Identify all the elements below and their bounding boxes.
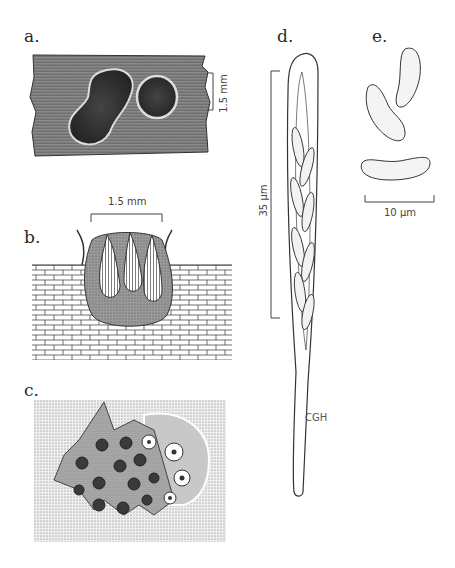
artist-signature: CGH [305,412,327,423]
panel-e-spores-illustration [360,45,440,195]
panel-a-label: a. [24,26,40,46]
panel-a-scale-label: 1.5 mm [218,74,229,114]
panel-b-scale-bar [91,213,163,223]
panel-e-scale-label: 10 µm [384,207,416,218]
panel-d-label: d. [277,26,293,46]
panel-e-scale-bar [364,194,436,204]
panel-b-section-illustration [32,225,232,360]
panel-a-scale-bar [207,72,217,112]
panel-d-scale-label: 35 µm [258,176,269,226]
panel-e-label: e. [372,26,387,46]
panel-c-label: c. [24,380,39,400]
panel-c-stroma-illustration [34,400,226,542]
panel-b-scale-label: 1.5 mm [108,196,147,207]
panel-d-ascus-illustration [278,52,338,522]
